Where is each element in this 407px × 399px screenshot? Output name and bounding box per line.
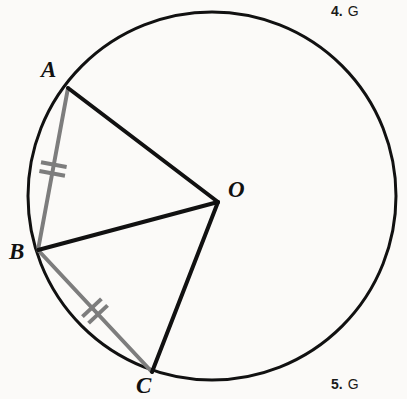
chord-ab-segment bbox=[38, 88, 68, 250]
exercise-4-number: 4. bbox=[331, 3, 343, 19]
geometry-figure: A B C O 4.G 5.G bbox=[0, 0, 407, 399]
radius-co-segment bbox=[152, 202, 218, 372]
chord-bc-segment bbox=[38, 250, 152, 372]
exercise-number-4: 4.G bbox=[331, 4, 359, 18]
radius-bo-segment bbox=[38, 202, 218, 250]
exercise-number-5: 5.G bbox=[331, 377, 359, 391]
exercise-5-fragment: G bbox=[348, 376, 359, 392]
tick-mark bbox=[39, 171, 65, 176]
vertex-label-b: B bbox=[9, 240, 24, 263]
exercise-4-fragment: G bbox=[348, 3, 359, 19]
vertex-label-o: O bbox=[228, 178, 245, 201]
vertex-label-a: A bbox=[41, 58, 56, 81]
exercise-5-number: 5. bbox=[331, 376, 343, 392]
radius-ao-segment bbox=[68, 88, 218, 202]
vertex-label-c: C bbox=[136, 374, 151, 397]
circle-diagram-canvas bbox=[0, 0, 407, 399]
tick-mark bbox=[41, 162, 67, 167]
